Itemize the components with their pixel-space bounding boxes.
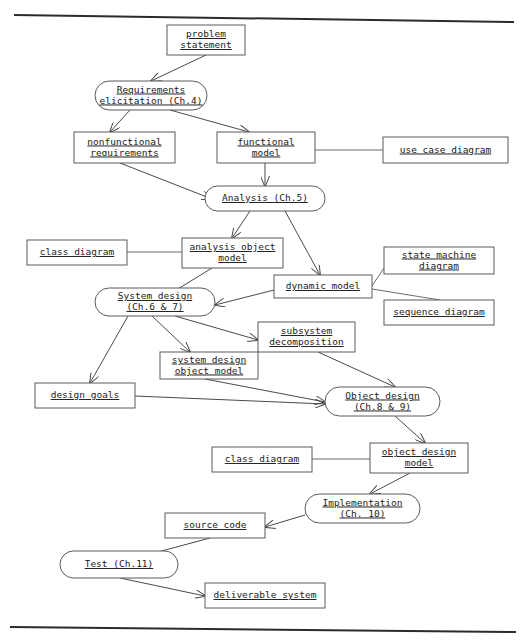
- node-problem-statement[interactable]: problemstatement: [167, 25, 245, 55]
- node-label: System design: [118, 290, 192, 301]
- node-label: use case diagram: [400, 144, 492, 155]
- node-label: Analysis (Ch.5): [222, 192, 308, 203]
- node-subsystem-decomposition[interactable]: subsystemdecomposition: [258, 322, 355, 352]
- edge-system_design_object_model-to-object_design: [205, 379, 325, 402]
- node-system-design[interactable]: System design(Ch.6 & 7): [95, 288, 215, 316]
- node-system-design-object-model[interactable]: system designobject model: [160, 352, 258, 379]
- node-label: decomposition: [269, 336, 343, 347]
- edge-object_design-to-object_design_model: [395, 416, 425, 443]
- node-label: subsystem: [281, 325, 333, 336]
- node-label: (Ch.8 & 9): [354, 401, 411, 412]
- edge-analysis-to-dynamic_model: [285, 211, 320, 275]
- edge-state_machine_diagram-to-dynamic_model: [372, 268, 384, 286]
- edge-subsystem_decomposition-to-object_design: [318, 352, 395, 387]
- node-label: (Ch.6 & 7): [126, 301, 183, 312]
- node-label: (Ch. 10): [340, 508, 386, 519]
- edge-design_goals-to-object_design: [135, 396, 325, 404]
- node-object-design[interactable]: Object design(Ch.8 & 9): [325, 387, 440, 416]
- nodes-layer: problemstatementRequirementselicitation …: [27, 25, 508, 608]
- node-label: Object design: [345, 390, 419, 401]
- node-label: requirements: [90, 147, 159, 158]
- node-test[interactable]: Test (Ch.11): [60, 551, 178, 578]
- node-state-machine-diagram[interactable]: state machinediagram: [384, 247, 494, 274]
- node-label: system design: [172, 354, 246, 365]
- edge-system_design-to-system_design_object_model: [152, 316, 190, 352]
- page-edge-bottom: [10, 627, 516, 632]
- node-label: statement: [180, 39, 231, 50]
- edge-requirements_elicitation-to-functional_model: [170, 110, 249, 132]
- node-label: analysis object: [190, 241, 276, 252]
- edge-problem_statement-to-requirements_elicitation: [151, 55, 206, 81]
- development-activities-diagram: problemstatementRequirementselicitation …: [0, 0, 522, 642]
- node-object-design-model[interactable]: object designmodel: [370, 443, 468, 473]
- node-label: object design: [382, 446, 456, 457]
- node-label: class diagram: [225, 453, 300, 464]
- node-deliverable-system[interactable]: deliverable system: [205, 583, 325, 608]
- node-label: problem: [186, 28, 226, 39]
- node-dynamic-model[interactable]: dynamic model: [274, 275, 372, 298]
- node-label: Test (Ch.11): [85, 558, 154, 569]
- node-label: design goals: [51, 389, 120, 400]
- node-label: model: [405, 457, 434, 468]
- node-label: elicitation (Ch.4): [100, 95, 203, 106]
- node-label: model: [252, 147, 281, 158]
- node-label: dynamic model: [286, 280, 360, 291]
- edge-implementation-to-source_code: [265, 515, 305, 527]
- node-label: object model: [175, 365, 244, 376]
- edge-system_design-to-design_goals: [90, 316, 128, 383]
- edge-object_design_model-to-implementation: [370, 473, 410, 494]
- node-label: Requirements: [117, 84, 186, 95]
- edge-dynamic_model-to-sequence_diagram: [372, 289, 440, 300]
- node-design-goals[interactable]: design goals: [35, 383, 135, 408]
- node-class-diagram-2[interactable]: class diagram: [212, 447, 312, 472]
- node-implementation[interactable]: Implementation(Ch. 10): [305, 494, 420, 523]
- node-source-code[interactable]: source code: [165, 513, 265, 538]
- node-class-diagram-1[interactable]: class diagram: [27, 240, 127, 265]
- node-label: state machine: [402, 249, 477, 260]
- node-label: model: [218, 252, 247, 263]
- node-label: Implementation: [322, 497, 402, 508]
- node-requirements-elicitation[interactable]: Requirementselicitation (Ch.4): [95, 81, 207, 110]
- edge-analysis-to-analysis_object_model: [232, 211, 250, 238]
- node-nonfunctional-requirements[interactable]: nonfunctionalrequirements: [74, 132, 175, 163]
- node-label: functional: [237, 136, 294, 147]
- node-sequence-diagram[interactable]: sequence diagram: [384, 300, 494, 325]
- page-edge-top: [14, 15, 514, 22]
- node-use-case-diagram[interactable]: use case diagram: [383, 137, 508, 163]
- node-label: class diagram: [40, 246, 115, 257]
- node-label: source code: [184, 519, 247, 530]
- edge-nonfunctional_requirements-to-analysis: [120, 163, 212, 199]
- node-label: nonfunctional: [87, 136, 161, 147]
- node-label: diagram: [419, 260, 459, 271]
- node-label: deliverable system: [214, 589, 317, 600]
- node-analysis[interactable]: Analysis (Ch.5): [205, 186, 325, 211]
- node-label: sequence diagram: [393, 306, 485, 317]
- node-analysis-object-model[interactable]: analysis objectmodel: [182, 238, 283, 268]
- node-functional-model[interactable]: functionalmodel: [217, 132, 315, 163]
- edge-requirements_elicitation-to-nonfunctional_requirements: [110, 110, 130, 132]
- edge-test-to-deliverable_system: [120, 578, 205, 596]
- edge-system_design-to-subsystem_decomposition: [175, 316, 258, 340]
- edge-dynamic_model-to-system_design: [215, 290, 274, 305]
